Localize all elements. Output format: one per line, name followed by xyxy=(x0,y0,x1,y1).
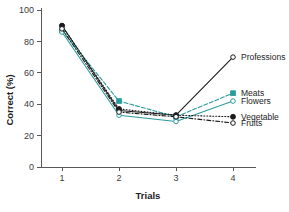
data-point xyxy=(174,119,179,124)
data-point xyxy=(231,121,236,126)
data-point xyxy=(231,91,236,96)
x-tick-label: 4 xyxy=(230,173,235,183)
series-line-professions xyxy=(62,26,233,115)
y-tick-label: 80 xyxy=(24,37,34,47)
legend-label-professions: Professions xyxy=(241,52,285,62)
series-professions xyxy=(60,23,236,117)
y-tick-label: 0 xyxy=(29,162,34,172)
data-point xyxy=(117,110,122,115)
data-point xyxy=(117,99,122,104)
series-line-vegetable xyxy=(62,26,233,117)
y-tick-label: 20 xyxy=(24,131,34,141)
x-tick-label: 2 xyxy=(116,173,121,183)
data-point xyxy=(231,99,236,104)
data-point xyxy=(231,55,236,60)
series-vegetable xyxy=(60,23,236,119)
data-point xyxy=(231,114,236,119)
y-tick-label: 100 xyxy=(19,5,34,15)
data-point xyxy=(60,27,65,32)
axis-lines xyxy=(41,8,256,167)
x-axis-ticks: 1234 xyxy=(59,167,235,183)
legend-label-flowers: Flowers xyxy=(241,96,271,106)
y-axis-ticks: 020406080100 xyxy=(19,5,41,172)
legend-group: ProfessionsMeatsFlowersVegetableFruits xyxy=(241,52,285,128)
chart-container: 020406080100 1234 ProfessionsMeatsFlower… xyxy=(0,0,289,212)
y-axis-title: Correct (%) xyxy=(4,74,15,125)
series-line-flowers xyxy=(62,32,233,121)
axes-group xyxy=(41,8,256,167)
x-tick-label: 1 xyxy=(59,173,64,183)
series-meats xyxy=(60,28,236,119)
series-flowers xyxy=(60,30,236,124)
y-tick-label: 40 xyxy=(24,99,34,109)
line-chart-plot: 020406080100 1234 ProfessionsMeatsFlower… xyxy=(0,0,289,212)
y-tick-label: 60 xyxy=(24,68,34,78)
x-tick-label: 3 xyxy=(173,173,178,183)
series-line-meats xyxy=(62,30,233,116)
x-axis-title: Trials xyxy=(136,190,161,201)
legend-label-fruits: Fruits xyxy=(241,118,262,128)
series-fruits xyxy=(60,27,236,126)
data-point xyxy=(174,114,179,119)
data-series-group xyxy=(60,23,236,125)
